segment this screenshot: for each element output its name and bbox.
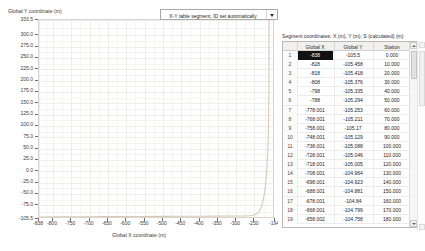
global-x-cell[interactable]: -788 — [297, 96, 333, 105]
global-y-cell[interactable]: -105.129 — [335, 133, 371, 142]
row-index-cell[interactable]: 4 — [283, 78, 298, 87]
global-x-cell[interactable]: -748.001 — [297, 133, 333, 142]
global-x-cell[interactable]: -758.001 — [297, 124, 333, 133]
panel-vertical-scrollbar[interactable] — [417, 41, 425, 231]
station-cell[interactable]: 110.000 — [375, 151, 409, 160]
global-y-cell[interactable]: -105.005 — [335, 160, 371, 169]
global-y-cell[interactable]: -105.335 — [335, 87, 371, 96]
row-index-cell[interactable]: 2 — [283, 60, 298, 69]
station-cell[interactable]: 0.000 — [375, 51, 409, 60]
row-index-cell[interactable]: 5 — [283, 87, 298, 96]
table-row[interactable]: 12-728.001-105.046110.000 — [283, 151, 409, 160]
global-x-cell[interactable]: -698.001 — [297, 178, 333, 187]
global-x-cell[interactable]: -688.001 — [297, 187, 333, 196]
column-header-global-x[interactable]: Global X — [297, 43, 333, 51]
table-row[interactable]: 18-668.001-104.799170.000 — [283, 206, 409, 215]
global-x-cell[interactable]: -838 — [297, 51, 333, 60]
global-x-cell[interactable]: -808 — [297, 78, 333, 87]
global-y-cell[interactable]: -105.418 — [335, 69, 371, 78]
table-body[interactable]: 1-838-105.50.0002-828-105.45810.0003-818… — [283, 51, 409, 227]
row-index-cell[interactable]: 16 — [283, 187, 298, 196]
column-header-station[interactable]: Station — [375, 43, 409, 51]
global-x-cell[interactable]: -658.002 — [297, 215, 333, 224]
global-x-cell[interactable]: -798 — [297, 87, 333, 96]
station-cell[interactable]: 10.000 — [375, 60, 409, 69]
table-row[interactable]: 5-798-105.33540.000 — [283, 87, 409, 96]
station-cell[interactable]: 180.000 — [375, 215, 409, 224]
global-y-cell[interactable]: -105.088 — [335, 142, 371, 151]
station-cell[interactable]: 50.000 — [375, 96, 409, 105]
table-row[interactable]: 11-738.001-105.088100.000 — [283, 142, 409, 151]
row-index-cell[interactable]: 1 — [283, 51, 298, 60]
table-row[interactable]: 19-658.002-104.758180.000 — [283, 215, 409, 224]
segment-type-combobox[interactable]: X-Y table segment, ID set automatically — [160, 9, 278, 20]
table-vertical-scrollbar[interactable] — [409, 42, 417, 227]
table-row[interactable]: 14-708.001-104.964130.000 — [283, 169, 409, 178]
station-cell[interactable]: 120.000 — [375, 160, 409, 169]
table-row[interactable]: 9-758.001-105.1780.000 — [283, 124, 409, 133]
row-index-cell[interactable]: 3 — [283, 69, 298, 78]
row-index-cell[interactable]: 14 — [283, 169, 298, 178]
table-row[interactable]: 6-788-105.29450.000 — [283, 96, 409, 105]
global-x-cell[interactable]: -708.001 — [297, 169, 333, 178]
row-index-cell[interactable]: 18 — [283, 206, 298, 215]
panel-scroll-down-button[interactable] — [419, 224, 425, 230]
row-index-cell[interactable]: 17 — [283, 197, 298, 206]
global-y-cell[interactable]: -104.923 — [335, 178, 371, 187]
global-x-cell[interactable]: -678.001 — [297, 197, 333, 206]
row-index-cell[interactable]: 13 — [283, 160, 298, 169]
row-index-cell[interactable]: 19 — [283, 215, 298, 224]
panel-scroll-up-button[interactable] — [419, 42, 425, 48]
station-cell[interactable]: 100.000 — [375, 142, 409, 151]
global-y-cell[interactable]: -104.881 — [335, 187, 371, 196]
table-row[interactable]: 15-698.001-104.923140.000 — [283, 178, 409, 187]
table-row[interactable]: 2-828-105.45810.000 — [283, 60, 409, 69]
table-row[interactable]: 1-838-105.50.000 — [283, 51, 409, 60]
global-x-cell[interactable]: -728.001 — [297, 151, 333, 160]
station-cell[interactable]: 170.000 — [375, 206, 409, 215]
scroll-up-button[interactable] — [410, 42, 417, 49]
table-row[interactable]: 17-678.001-104.84160.000 — [283, 197, 409, 206]
station-cell[interactable]: 90.000 — [375, 133, 409, 142]
table-row[interactable]: 8-768.001-105.21170.000 — [283, 115, 409, 124]
global-y-cell[interactable]: -105.458 — [335, 60, 371, 69]
table-row[interactable]: 10-748.001-105.12990.000 — [283, 133, 409, 142]
table-row[interactable]: 7-778.001-105.25360.000 — [283, 106, 409, 115]
row-index-cell[interactable]: 10 — [283, 133, 298, 142]
station-cell[interactable]: 20.000 — [375, 69, 409, 78]
station-cell[interactable]: 130.000 — [375, 169, 409, 178]
global-y-cell[interactable]: -105.253 — [335, 106, 371, 115]
global-x-cell[interactable]: -828 — [297, 60, 333, 69]
row-index-cell[interactable]: 8 — [283, 115, 298, 124]
station-cell[interactable]: 150.000 — [375, 187, 409, 196]
row-index-cell[interactable]: 7 — [283, 106, 298, 115]
global-x-cell[interactable]: -778.001 — [297, 106, 333, 115]
segment-coordinates-table[interactable]: Global X Global Y Station 1-838-105.50.0… — [282, 41, 418, 228]
station-cell[interactable]: 140.000 — [375, 178, 409, 187]
station-cell[interactable]: 160.000 — [375, 197, 409, 206]
global-y-cell[interactable]: -105.294 — [335, 96, 371, 105]
global-y-cell[interactable]: -105.376 — [335, 78, 371, 87]
global-x-cell[interactable]: -738.001 — [297, 142, 333, 151]
column-header-global-y[interactable]: Global Y — [335, 43, 371, 51]
station-cell[interactable]: 70.000 — [375, 115, 409, 124]
global-y-cell[interactable]: -104.799 — [335, 206, 371, 215]
global-x-cell[interactable]: -668.001 — [297, 206, 333, 215]
station-cell[interactable]: 40.000 — [375, 87, 409, 96]
global-y-cell[interactable]: -104.84 — [335, 197, 371, 206]
table-row[interactable]: 4-808-105.37630.000 — [283, 78, 409, 87]
row-index-cell[interactable]: 9 — [283, 124, 298, 133]
station-cell[interactable]: 30.000 — [375, 78, 409, 87]
global-x-cell[interactable]: -718.001 — [297, 160, 333, 169]
table-row[interactable]: 3-818-105.41820.000 — [283, 69, 409, 78]
scrollbar-thumb[interactable] — [411, 51, 417, 79]
table-row[interactable]: 16-688.001-104.881150.000 — [283, 187, 409, 196]
station-cell[interactable]: 60.000 — [375, 106, 409, 115]
station-cell[interactable]: 80.000 — [375, 124, 409, 133]
global-y-cell[interactable]: -104.758 — [335, 215, 371, 224]
global-y-cell[interactable]: -105.211 — [335, 115, 371, 124]
global-y-cell[interactable]: -105.17 — [335, 124, 371, 133]
row-index-cell[interactable]: 11 — [283, 142, 298, 151]
global-x-cell[interactable]: -818 — [297, 69, 333, 78]
global-y-cell[interactable]: -105.046 — [335, 151, 371, 160]
